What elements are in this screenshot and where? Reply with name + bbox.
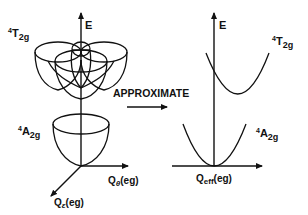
right-t2g-label: 4T2g (272, 35, 293, 50)
left-energy-axis-label: E (85, 19, 92, 31)
q-theta-axis-label: Qθ(eg) (108, 175, 139, 188)
approximate-transition: APPROXIMATE (113, 87, 189, 107)
potential-energy-diagram: E 4T2g (0, 0, 308, 215)
left-t2g-label: 4T2g (8, 27, 29, 42)
q-eff-axis-label: Qeff(eg) (196, 173, 232, 186)
right-a2g-label: 4A2g (256, 127, 278, 142)
left-3d-diagram: E 4T2g (8, 13, 139, 210)
right-energy-axis-label: E (219, 19, 226, 31)
q-epsilon-axis (51, 166, 81, 196)
approximate-label: APPROXIMATE (113, 87, 189, 99)
right-2d-diagram: E 4T2g 4A2g Qeff(eg) (172, 13, 293, 186)
left-a2g-label: 4A2g (18, 125, 40, 140)
t2g-parabola (206, 53, 269, 94)
q-epsilon-axis-label: Qε(eg) (54, 197, 84, 210)
